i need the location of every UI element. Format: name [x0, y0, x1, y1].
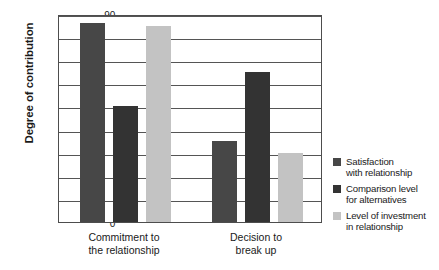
- legend-swatch-icon: [333, 158, 341, 166]
- legend-swatch-icon: [333, 185, 341, 193]
- legend-label: Comparison level for alternatives: [346, 183, 418, 205]
- legend-item: Comparison level for alternatives: [333, 183, 439, 205]
- legend-item: Satisfaction with relationship: [333, 156, 439, 178]
- baseline-axis: [59, 222, 321, 223]
- y-axis-title: Degree of contribution: [23, 0, 35, 168]
- gridline: [59, 16, 321, 17]
- bar: [245, 72, 270, 222]
- plot-area: [58, 15, 322, 223]
- legend-label: Level of investment in relationship: [346, 210, 426, 232]
- bar-chart-figure: Degree of contribution 0.10.20.30.40.50.…: [0, 0, 439, 270]
- legend-swatch-icon: [333, 212, 341, 220]
- bar: [146, 26, 171, 222]
- bar: [278, 153, 303, 222]
- x-axis-category-label: Decision to break up: [230, 231, 282, 256]
- bar: [113, 106, 138, 222]
- legend-item: Level of investment in relationship: [333, 210, 439, 232]
- x-axis-category-label: Commitment to the relationship: [88, 231, 159, 256]
- bar: [212, 141, 237, 222]
- legend: Satisfaction with relationshipComparison…: [333, 156, 439, 237]
- bar: [80, 23, 105, 222]
- legend-label: Satisfaction with relationship: [346, 156, 412, 178]
